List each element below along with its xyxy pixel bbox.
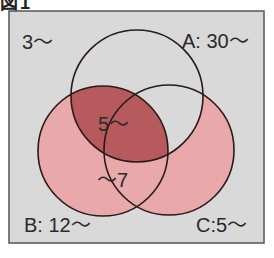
label-outside: 3〜: [22, 32, 53, 52]
label-set-a: A: 30〜: [182, 31, 249, 51]
label-set-c: C:5〜: [196, 215, 247, 235]
label-a-and-b: 5〜: [98, 114, 129, 134]
label-set-b: B: 12〜: [24, 215, 91, 235]
label-b-and-c: 〜7: [97, 170, 128, 190]
